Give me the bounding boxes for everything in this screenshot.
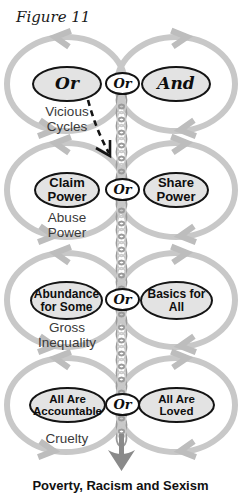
figure-container: Figure 11 Or Or And Vicious Cycles Claim… <box>0 0 241 500</box>
oval-claim-power: Claim Power <box>34 172 100 208</box>
connector-oval: Or <box>105 288 140 311</box>
figure-label: Figure 11 <box>16 8 90 26</box>
connector-oval: Or <box>105 72 140 95</box>
connector-oval: Or <box>105 178 140 201</box>
connector-oval: Or <box>105 393 140 416</box>
section-label: Abuse Power <box>30 210 104 240</box>
oval-or: Or <box>32 66 102 102</box>
oval-and: And <box>141 66 211 102</box>
oval-all-are-loved: All Are Loved <box>138 387 215 423</box>
oval-all-are-accountable: All Are Accountable <box>29 387 106 423</box>
oval-share-power: Share Power <box>143 172 209 208</box>
down-arrow-icon <box>108 434 135 471</box>
section-label: Vicious Cycles <box>30 104 104 134</box>
section-label: Cruelty <box>30 431 104 446</box>
oval-basics-for-all: Basics for All <box>140 281 213 320</box>
caption: Poverty, Racism and Sexism <box>0 478 241 493</box>
oval-abundance-for-some: Abundance for Some <box>30 281 103 320</box>
section-label: Gross Inequality <box>30 320 104 350</box>
